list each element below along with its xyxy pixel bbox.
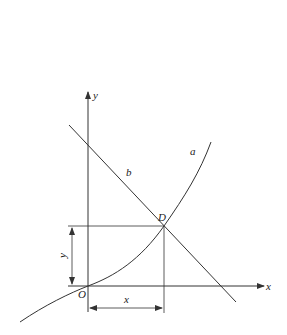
line-b: b — [69, 125, 236, 302]
curve-a-path — [20, 142, 211, 322]
curve-a-label: a — [190, 145, 196, 157]
dimension-y-label: y — [56, 253, 68, 259]
dimension-x: x — [90, 293, 162, 308]
y-axis-label: y — [92, 89, 98, 101]
intersection-d-label: D — [157, 211, 166, 223]
x-axis-label: x — [265, 280, 271, 292]
line-b-label: b — [126, 166, 132, 178]
diagram-canvas: x y O a b D y x — [0, 0, 287, 335]
dimension-x-label: x — [123, 293, 129, 305]
diagram-svg: x y O a b D y x — [0, 0, 287, 335]
line-b-path — [69, 125, 236, 302]
axes: x y O — [68, 89, 271, 312]
curve-a: a — [20, 142, 211, 322]
dimension-y: y — [56, 228, 72, 284]
